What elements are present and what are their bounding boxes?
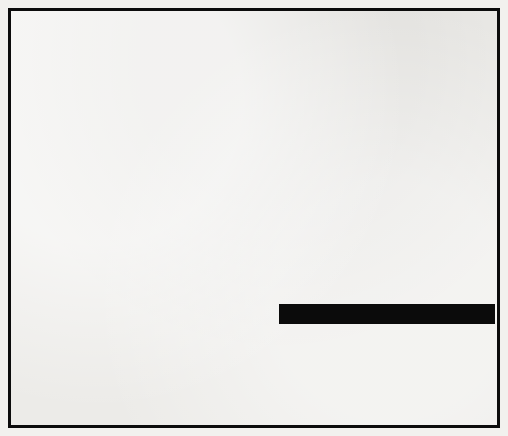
election-legend <box>279 304 495 428</box>
legend-title-bar <box>279 304 495 324</box>
map-frame-border <box>8 8 500 428</box>
map-paper-background <box>11 11 497 425</box>
election-map-page <box>0 0 508 436</box>
legend-table <box>279 324 495 428</box>
